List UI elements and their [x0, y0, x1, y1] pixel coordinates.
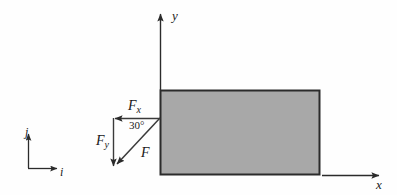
- basis-j-label: j: [25, 126, 28, 138]
- y-axis-label: y: [172, 9, 178, 22]
- force-y-label: Fy: [96, 134, 109, 150]
- force-x-label-subscript: x: [137, 104, 141, 115]
- force-resultant-label: F: [141, 146, 150, 160]
- free-body-diagram: y x j i Fx Fy F 30°: [0, 0, 397, 195]
- x-axis-label: x: [376, 178, 382, 191]
- angle-label: 30°: [129, 120, 144, 131]
- force-y-label-subscript: y: [105, 139, 109, 150]
- basis-i-label: i: [60, 166, 63, 178]
- force-x-label: Fx: [128, 99, 141, 115]
- force-y-label-base: F: [96, 133, 105, 148]
- rectangular-block: [161, 91, 320, 175]
- force-x-label-base: F: [128, 98, 137, 113]
